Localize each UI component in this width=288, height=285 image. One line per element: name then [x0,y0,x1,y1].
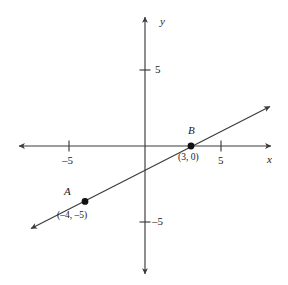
y-tick-label-neg5: –5 [152,216,163,227]
point-a-marker [82,198,89,205]
point-a-coordinates: (–4, –5) [57,211,87,221]
y-tick-label-pos5: 5 [155,64,161,75]
point-b-coordinates: (3, 0) [178,153,199,163]
x-axis-label: x [267,154,272,165]
x-tick-label-pos5: 5 [218,155,224,166]
coordinate-plane-figure: y x –5 5 5 –5 A (–4, –5) B (3, 0) [0,0,288,285]
point-a-label: A [64,186,71,197]
y-axis-label: y [160,16,165,27]
point-b-label: B [188,125,195,136]
graph-canvas [0,0,288,285]
point-b-marker [188,143,195,150]
x-tick-label-neg5: –5 [62,155,73,166]
